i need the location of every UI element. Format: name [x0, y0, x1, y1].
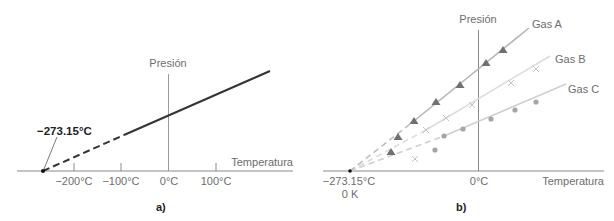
y-axis-label-b: Presión [459, 13, 496, 25]
marker-triangle [394, 133, 403, 140]
annotation-absolute-zero-a: −273.15°C [37, 125, 92, 137]
marker-circle [441, 133, 446, 138]
chart-b: Presión Gas A Gas B Gas C −273.15°C 0 K … [323, 13, 605, 213]
marker-x [533, 66, 539, 72]
chart-a: −273.15°C Presión Temperatura −200°C −10… [17, 57, 294, 213]
figure: −273.15°C Presión Temperatura −200°C −10… [0, 0, 614, 221]
tick-label-absolute-zero-c: −273.15°C [323, 175, 375, 187]
tick-label-minus200: −200°C [55, 175, 92, 187]
marker-x [412, 156, 418, 162]
marker-x [508, 80, 514, 86]
extrapolation-line-a [43, 135, 124, 171]
series-gas-a [350, 28, 529, 171]
label-gas-b: Gas B [555, 53, 586, 65]
panel-label-b: b) [456, 201, 467, 213]
annotation-leader-a [44, 137, 57, 169]
tick-label-100: 100°C [201, 175, 232, 187]
series-gas-c [350, 84, 566, 171]
tick-label-0: 0°C [160, 175, 179, 187]
marker-triangle [387, 148, 396, 155]
tick-label-absolute-zero-k: 0 K [342, 188, 359, 200]
marker-x [443, 115, 449, 121]
absolute-zero-point-b [348, 169, 352, 173]
marker-x [423, 127, 429, 133]
y-axis-label-a: Presión [149, 57, 186, 69]
marker-circle [460, 126, 465, 131]
absolute-zero-point-a [41, 169, 45, 173]
tick-label-0c-b: 0°C [470, 175, 489, 187]
marker-circle [488, 116, 493, 121]
data-line-a [124, 71, 270, 135]
x-axis-label-b: Temperatura [542, 175, 605, 187]
marker-circle [512, 107, 517, 112]
label-gas-c: Gas C [568, 83, 599, 95]
panel-label-a: a) [156, 201, 166, 213]
label-gas-a: Gas A [532, 18, 563, 30]
series-gas-b [350, 56, 550, 171]
tick-label-minus100: −100°C [102, 175, 139, 187]
marker-circle [533, 99, 538, 104]
marker-circle [432, 147, 437, 152]
x-axis-label-a: Temperatura [231, 156, 294, 168]
